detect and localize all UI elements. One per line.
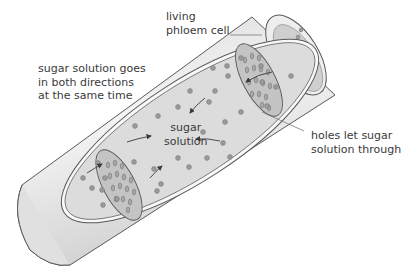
label-line: at the same time [38, 89, 146, 103]
label-line: living [166, 10, 230, 24]
label-sugar-solution: sugar solution [164, 121, 208, 148]
label-holes: holes let sugar solution through [311, 129, 401, 156]
label-line: sugar [164, 121, 208, 135]
label-living-phloem-cell: living phloem cell [166, 10, 230, 37]
label-flow-direction: sugar solution goes in both directions a… [38, 62, 146, 103]
label-line: solution through [311, 143, 401, 157]
label-line: sugar solution goes [38, 62, 146, 76]
label-line: solution [164, 135, 208, 149]
label-line: phloem cell [166, 24, 230, 38]
phloem-diagram: living phloem cell sugar solution goes i… [0, 0, 402, 279]
label-line: in both directions [38, 76, 146, 90]
label-line: holes let sugar [311, 129, 401, 143]
